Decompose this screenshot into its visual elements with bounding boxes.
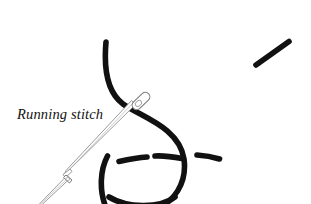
- figure-background: [0, 0, 311, 204]
- illustration-canvas: [0, 0, 311, 204]
- needle-secondary-eye-hole: [66, 178, 70, 181]
- stitch-dash-middle: [155, 156, 182, 159]
- running-stitch-figure: Running stitch: [0, 0, 311, 204]
